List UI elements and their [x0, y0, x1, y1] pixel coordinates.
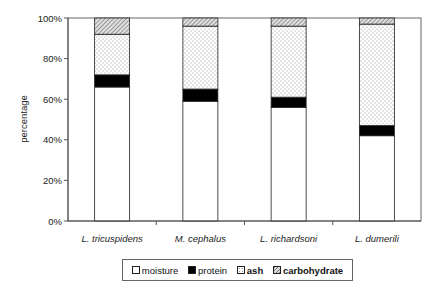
bar-segment-moisture — [271, 107, 306, 221]
bar-segment-moisture — [183, 101, 218, 221]
moisture-swatch-icon — [132, 266, 140, 274]
y-axis-label: percentage — [18, 95, 29, 143]
x-category-label: M. cephalus — [175, 233, 226, 244]
legend-item-moisture: moisture — [132, 265, 178, 276]
legend-label: moisture — [142, 265, 178, 276]
bar-3 — [359, 18, 394, 221]
x-category-label: L. dumerili — [355, 233, 400, 244]
plot-area — [68, 18, 421, 221]
legend-label: carbohydrate — [283, 265, 343, 276]
bar-segment-ash — [271, 26, 306, 97]
y-tick-label: 0% — [48, 216, 62, 227]
legend-item-carbohydrate: carbohydrate — [273, 265, 343, 276]
legend-item-ash: ash — [237, 265, 263, 276]
y-tick-label: 40% — [43, 134, 63, 145]
bar-segment-protein — [95, 75, 130, 87]
y-tick-label: 20% — [43, 175, 63, 186]
legend-label: protein — [198, 265, 227, 276]
x-category-label: L. tricuspidens — [81, 233, 143, 244]
legend-item-protein: protein — [188, 265, 227, 276]
x-axis: L. tricuspidensM. cephalusL. richardsoni… — [68, 221, 421, 244]
stacked-bar-chart: 0%20%40%60%80%100% L. tricuspidensM. cep… — [0, 0, 441, 299]
y-tick-label: 80% — [43, 53, 63, 64]
bar-segment-ash — [183, 26, 218, 89]
bar-segment-protein — [183, 89, 218, 101]
bar-segment-protein — [271, 97, 306, 107]
bar-segment-moisture — [95, 87, 130, 221]
bar-segment-ash — [95, 34, 130, 75]
protein-swatch-icon — [188, 266, 196, 274]
bar-segment-carbohydrate — [359, 18, 394, 24]
y-tick-label: 100% — [38, 13, 63, 24]
x-category-label: L. richardsoni — [260, 233, 318, 244]
bar-2 — [271, 18, 306, 221]
bar-segment-carbohydrate — [95, 18, 130, 34]
bar-segment-ash — [359, 24, 394, 126]
y-axis: 0%20%40%60%80%100% — [38, 13, 68, 227]
ash-swatch-icon — [237, 266, 245, 274]
bar-segment-carbohydrate — [271, 18, 306, 26]
bar-segment-moisture — [359, 136, 394, 221]
legend-label: ash — [247, 265, 263, 276]
legend: moisture protein ash carbohydrate — [122, 259, 353, 281]
bar-0 — [95, 18, 130, 221]
bar-segment-protein — [359, 126, 394, 136]
carbohydrate-swatch-icon — [273, 266, 281, 274]
bar-segment-carbohydrate — [183, 18, 218, 26]
y-tick-label: 60% — [43, 94, 63, 105]
bar-1 — [183, 18, 218, 221]
